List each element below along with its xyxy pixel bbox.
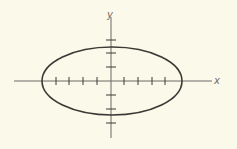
y-axis-label: y <box>106 9 114 20</box>
x-axis-label: x <box>213 75 220 86</box>
diagram-canvas: x y <box>0 0 237 149</box>
ellipse-diagram: x y <box>0 0 237 149</box>
